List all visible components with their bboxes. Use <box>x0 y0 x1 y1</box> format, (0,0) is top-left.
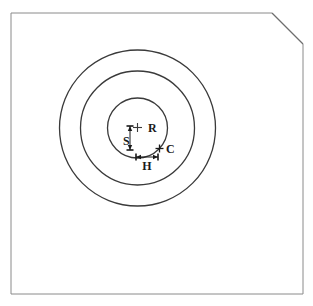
label-r: R <box>148 121 157 135</box>
concentric-circle-diagram: R C S H <box>0 0 313 306</box>
label-s: S <box>123 134 130 148</box>
page-background <box>0 0 313 306</box>
label-h: H <box>142 159 152 173</box>
label-c: C <box>166 142 175 156</box>
figure-canvas: R C S H <box>0 0 313 306</box>
